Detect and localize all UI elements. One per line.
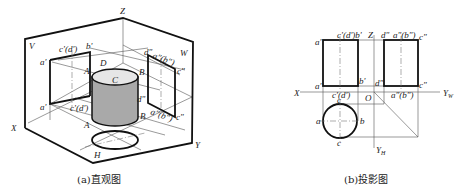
label-b: b	[360, 116, 365, 126]
label-a-prime-top: a'	[315, 37, 323, 47]
label-d-dprime-top: d"	[144, 47, 153, 57]
label-cd-prime-top: c'(d')	[59, 44, 77, 54]
caption-pictorial: (a)直观图	[77, 173, 121, 185]
h-projection-centerline	[85, 133, 145, 147]
label-x: X	[10, 123, 17, 133]
label-A-top: A	[83, 66, 90, 76]
label-v-plane: V	[29, 41, 36, 51]
label-c-dprime-bottom: c"	[419, 80, 427, 90]
projection-diagram: Z V W X Y H a' a' c'(d') c'(d') b' A A D…	[0, 0, 462, 189]
label-ab-dprime-top: a"(b")	[393, 30, 416, 40]
label-c-bottom: c	[337, 138, 341, 148]
label-c-dprime-top: c"	[177, 66, 185, 76]
label-a-prime-bottom: a'	[40, 102, 48, 112]
label-y: Y	[195, 140, 201, 150]
label-c-dprime-top: c"	[419, 32, 427, 42]
label-ab-dprime-bottom: a"(b")	[391, 90, 414, 100]
label-B-bottom: B	[140, 111, 146, 121]
label-ab-dprime-bottom: a"(b")	[149, 106, 174, 123]
label-b-prime: b'	[86, 41, 94, 51]
label-c-dprime-bottom: c"	[176, 112, 184, 122]
label-x: X	[293, 88, 300, 98]
label-a: a	[316, 116, 321, 126]
pictorial-view: Z V W X Y H a' a' c'(d') c'(d') b' A A D…	[10, 6, 201, 185]
label-B-top: B	[139, 67, 145, 77]
label-yh: YH	[376, 145, 386, 156]
label-w-plane: W	[180, 48, 189, 58]
label-c-top: c	[337, 95, 341, 105]
front-view-rect	[323, 40, 358, 86]
label-origin: O	[365, 93, 372, 103]
label-cd-prime-bottom: c'(d')	[332, 90, 350, 100]
label-cd-prime-bottom: c'(d')	[70, 103, 88, 113]
label-d-dprime-bottom: d"	[137, 94, 146, 104]
caption-projection: (b)投影图	[344, 173, 388, 185]
label-D: D	[99, 58, 107, 68]
label-d-dprime-top: d"	[381, 30, 390, 40]
label-C: C	[112, 75, 119, 85]
orthographic-view: X Z O YW YH a' c'(d')b' a' b' c'(d') d" …	[293, 30, 454, 185]
label-yw: YW	[443, 88, 454, 99]
label-a-prime-top: a'	[40, 57, 48, 67]
label-A-bottom: A	[83, 120, 90, 130]
label-cdb-prime-top: c'(d')b'	[337, 30, 363, 40]
label-h-plane: H	[93, 150, 101, 160]
label-a-prime-bottom: a'	[315, 81, 323, 91]
top-view-circle	[323, 104, 357, 138]
label-d-dprime-bottom: d"	[375, 78, 384, 88]
label-z: Z	[368, 30, 374, 40]
label-b-prime-bottom: b'	[359, 76, 367, 86]
label-z: Z	[120, 6, 126, 16]
